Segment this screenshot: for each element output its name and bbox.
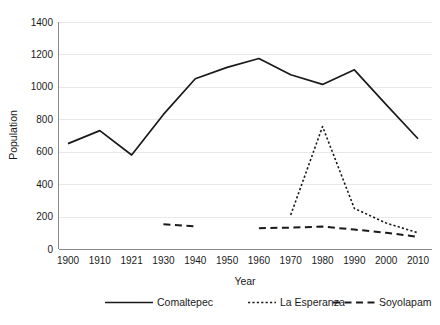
series-line	[259, 227, 418, 237]
gridlines	[59, 23, 433, 218]
legend-label: Soyolapam	[379, 296, 432, 308]
y-tick-label: 1000	[31, 81, 54, 92]
x-tick-label: 1990	[343, 255, 366, 266]
chart-canvas: 0200400600800100012001400 19001910192119…	[0, 0, 440, 325]
y-axis-title: Population	[7, 110, 19, 160]
chart-legend: ComaltepecLa EsperanzaSoyolapam	[105, 296, 432, 308]
x-tick-label: 1930	[152, 255, 175, 266]
y-tick-label: 1200	[31, 49, 54, 60]
series-line	[68, 58, 418, 154]
population-line-chart: 0200400600800100012001400 19001910192119…	[0, 0, 440, 325]
x-tick-label: 1970	[280, 255, 303, 266]
y-tick-label: 400	[36, 179, 53, 190]
x-tick-label: 1980	[311, 255, 334, 266]
y-tick-label: 200	[36, 211, 53, 222]
x-tick-label: 1910	[89, 255, 112, 266]
axis-lines	[59, 22, 433, 250]
x-tick-label: 1900	[57, 255, 80, 266]
y-tick-label: 1400	[31, 17, 54, 28]
x-tick-label: 2010	[407, 255, 430, 266]
x-tick-label: 1921	[121, 255, 144, 266]
x-tick-label: 1960	[248, 255, 271, 266]
x-tick-label: 1940	[184, 255, 207, 266]
y-tick-labels: 0200400600800100012001400	[31, 17, 54, 255]
data-series-group	[68, 58, 418, 236]
x-tick-label: 2000	[375, 255, 398, 266]
y-tick-label: 600	[36, 146, 53, 157]
x-axis-title: Year	[234, 275, 256, 287]
series-line	[163, 224, 195, 226]
y-tick-label: 0	[47, 244, 53, 255]
legend-label: Comaltepec	[157, 296, 213, 308]
y-tick-label: 800	[36, 114, 53, 125]
x-tick-labels: 1900191019211930194019501960197019801990…	[57, 255, 430, 266]
series-line	[291, 127, 418, 233]
x-tick-label: 1950	[216, 255, 239, 266]
